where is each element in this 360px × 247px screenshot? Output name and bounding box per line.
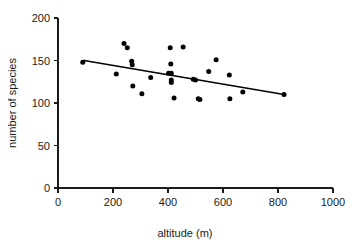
chart-canvas: 050100150200 02004006008001000 altitude … (0, 0, 360, 247)
data-point (122, 41, 127, 46)
x-axis-tick-label: 400 (159, 196, 177, 208)
scatter-plot-figure: 050100150200 02004006008001000 altitude … (0, 0, 360, 247)
y-axis-tick-label: 0 (44, 182, 50, 194)
y-axis-tick-label: 100 (32, 97, 50, 109)
data-point (181, 44, 186, 49)
data-point (114, 72, 119, 77)
data-point (197, 97, 202, 102)
regression-trend-line (84, 61, 284, 95)
x-axis-tick-label: 1000 (321, 196, 345, 208)
data-point (130, 84, 135, 89)
data-point (125, 45, 130, 50)
data-point (130, 62, 135, 67)
x-axis-tick-label: 200 (104, 196, 122, 208)
data-point (169, 80, 174, 85)
x-axis-tick-label: 600 (214, 196, 232, 208)
data-point (227, 96, 232, 101)
trend-line-group (84, 61, 284, 95)
data-point (206, 69, 211, 74)
x-axis-title: altitude (m) (157, 227, 212, 239)
data-point (240, 89, 245, 94)
y-axis: 050100150200 (32, 12, 58, 194)
data-point (214, 57, 219, 62)
data-point (227, 72, 232, 77)
data-points-group (80, 41, 286, 102)
y-axis-tick-label: 200 (32, 12, 50, 24)
x-axis: 02004006008001000 (55, 188, 345, 208)
y-axis-tick-label: 50 (38, 140, 50, 152)
x-axis-tick-label: 800 (269, 196, 287, 208)
data-point (148, 75, 153, 80)
x-axis-tick-label: 0 (55, 196, 61, 208)
data-point (168, 45, 173, 50)
data-point (139, 91, 144, 96)
y-axis-tick-label: 150 (32, 55, 50, 67)
y-axis-title: number of species (6, 58, 18, 148)
data-point (168, 61, 173, 66)
data-point (172, 95, 177, 100)
